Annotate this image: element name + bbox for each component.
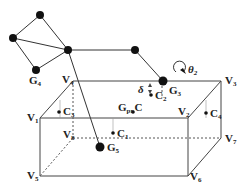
edge	[36, 50, 68, 70]
edge	[13, 38, 36, 70]
point-c2	[149, 93, 153, 97]
label-c4: C4	[210, 107, 222, 121]
delta-arrows-icon	[148, 83, 152, 94]
label-g3: G3	[169, 84, 182, 98]
label-c2: C2	[155, 89, 167, 103]
graph-node-left	[9, 34, 17, 42]
graph-node-right	[131, 46, 139, 54]
label-v3: V3	[225, 74, 237, 88]
label-v7: V7	[225, 132, 237, 146]
point-c1	[111, 131, 115, 135]
label-v1: V1	[27, 111, 39, 125]
label-delta: δ	[138, 83, 144, 95]
graph-node-g4	[32, 66, 40, 74]
edge	[135, 50, 163, 81]
graph-node-top	[36, 11, 44, 19]
graph-node-g3	[159, 77, 168, 86]
graph-box-diagram: G4 G3 G5 V4 V3 V1 V2 V8 V7 V5 V6 C3 C1 C…	[0, 0, 249, 193]
rotation-arrow-icon	[174, 61, 186, 74]
label-g5: G5	[107, 141, 120, 155]
label-g4: G4	[29, 74, 42, 88]
label-v2: V2	[178, 105, 190, 119]
graph-node-hub	[64, 46, 72, 54]
label-c3: C3	[63, 105, 75, 119]
label-gpr-c: GprC	[118, 101, 143, 115]
edge-v8-v5	[40, 138, 73, 176]
label-v4: V4	[62, 73, 74, 87]
label-v5: V5	[27, 169, 39, 183]
label-v6: V6	[190, 170, 202, 184]
point-c4	[204, 111, 208, 115]
graph-node-g5	[96, 143, 105, 152]
point-c3	[57, 110, 61, 114]
label-c1: C1	[117, 127, 129, 141]
edge	[13, 15, 40, 38]
label-theta: θ2	[188, 63, 198, 77]
